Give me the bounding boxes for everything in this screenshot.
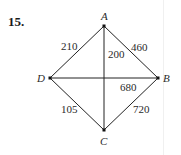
edge-weight-d-c: 105 — [61, 103, 78, 115]
edge-weight-a-d: 210 — [61, 40, 78, 52]
node-c-dot — [103, 129, 106, 132]
node-label-a: A — [100, 10, 108, 22]
edge-weight-d-b: 680 — [120, 81, 137, 93]
node-a-dot — [103, 25, 106, 28]
node-d-dot — [49, 77, 52, 80]
node-label-d: D — [36, 72, 45, 84]
edge-weight-a-b: 460 — [131, 41, 148, 53]
node-label-c: C — [100, 135, 108, 147]
node-label-b: B — [163, 72, 170, 84]
edge-a-d — [50, 26, 104, 78]
edge-weight-a-c: 200 — [108, 48, 125, 60]
weighted-graph-diagram: A B C D 210 460 200 680 105 720 — [0, 0, 181, 155]
edge-weight-b-c: 720 — [133, 103, 150, 115]
node-b-dot — [157, 77, 160, 80]
